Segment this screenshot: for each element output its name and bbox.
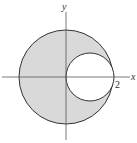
x-tick-label-2: 2: [115, 79, 120, 90]
y-axis-label: y: [61, 1, 67, 12]
x-axis-label: x: [130, 71, 136, 82]
polar-region-diagram: x y 2: [0, 0, 137, 143]
